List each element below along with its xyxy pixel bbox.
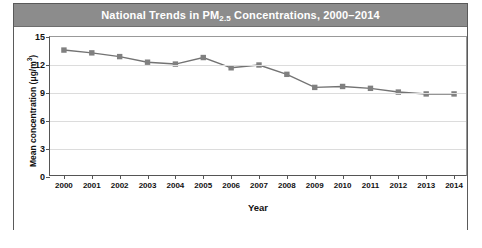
page-title: National Trends in PM2.5 Concentrations,… xyxy=(101,9,379,21)
x-axis-tick-mark xyxy=(454,175,455,179)
x-axis-tick-label: 2013 xyxy=(417,181,435,190)
data-point-marker xyxy=(340,84,345,89)
x-axis-tick-mark xyxy=(148,175,149,179)
x-axis-tick-label: 2004 xyxy=(166,181,184,190)
x-axis-tick-label: 2000 xyxy=(55,181,73,190)
x-axis-tick-mark xyxy=(259,175,260,179)
x-axis-tick-label: 2008 xyxy=(278,181,296,190)
data-point-marker xyxy=(284,72,289,77)
x-axis-tick-mark xyxy=(343,175,344,179)
x-axis-tick-mark xyxy=(287,175,288,179)
data-point-marker xyxy=(117,54,122,59)
x-axis-tick-label: 2001 xyxy=(83,181,101,190)
x-axis-tick-label: 2006 xyxy=(222,181,240,190)
data-point-marker xyxy=(61,47,66,52)
x-axis-tick-label: 2002 xyxy=(111,181,129,190)
x-axis-tick-mark xyxy=(120,175,121,179)
y-axis-tick-label: 15 xyxy=(35,32,45,42)
x-axis-tick-mark xyxy=(370,175,371,179)
x-axis-tick-mark xyxy=(315,175,316,179)
plot-area: 0369121520002001200220032004200520062007… xyxy=(49,36,467,176)
chart-title-main: National Trends in PM xyxy=(101,9,219,21)
x-axis-tick-label: 2007 xyxy=(250,181,268,190)
y-axis-tick-label: 6 xyxy=(40,116,45,126)
y-axis-tick-mark xyxy=(46,177,50,178)
x-axis-tick-mark xyxy=(64,175,65,179)
data-point-marker xyxy=(201,55,206,60)
chart-title-rest: Concentrations, 2000–2014 xyxy=(231,9,380,21)
y-gridline xyxy=(50,149,466,150)
y-axis-label-tail: ) xyxy=(28,55,38,58)
y-axis-tick-label: 0 xyxy=(40,172,45,182)
y-axis-tick-mark xyxy=(46,93,50,94)
x-axis-tick-label: 2003 xyxy=(139,181,157,190)
x-axis-tick-label: 2005 xyxy=(194,181,212,190)
data-point-marker xyxy=(312,85,317,90)
x-axis-tick-label: 2010 xyxy=(334,181,352,190)
data-point-marker xyxy=(89,50,94,55)
y-axis-label-superscript: 3 xyxy=(26,58,33,62)
y-axis-tick-mark xyxy=(46,149,50,150)
y-axis-tick-mark xyxy=(46,65,50,66)
x-axis-tick-label: 2009 xyxy=(306,181,324,190)
x-axis-tick-mark xyxy=(175,175,176,179)
data-point-marker xyxy=(368,86,373,91)
y-gridline xyxy=(50,65,466,66)
y-axis-tick-mark xyxy=(46,121,50,122)
series-line-path xyxy=(64,50,454,94)
y-axis-tick-label: 12 xyxy=(35,60,45,70)
x-axis-tick-mark xyxy=(398,175,399,179)
x-axis-tick-label: 2012 xyxy=(389,181,407,190)
x-axis-tick-mark xyxy=(426,175,427,179)
data-series-line xyxy=(50,37,468,177)
x-axis-tick-mark xyxy=(92,175,93,179)
y-gridline xyxy=(50,93,466,94)
x-axis-tick-mark xyxy=(231,175,232,179)
x-axis-tick-label: 2014 xyxy=(445,181,463,190)
x-axis-tick-mark xyxy=(203,175,204,179)
x-axis-label: Year xyxy=(49,202,467,213)
x-axis-tick-label: 2011 xyxy=(362,181,379,190)
y-axis-tick-mark xyxy=(46,37,50,38)
chart-title-bar: National Trends in PM2.5 Concentrations,… xyxy=(14,4,467,27)
y-axis-label-main: Mean concentration (μg/m xyxy=(28,61,38,167)
chart-figure: National Trends in PM2.5 Concentrations,… xyxy=(13,3,468,230)
plot-wrapper: Mean concentration (μg/m3) 0369121520002… xyxy=(14,27,467,231)
chart-title-subscript: 2.5 xyxy=(219,14,231,23)
y-axis-tick-label: 3 xyxy=(40,144,45,154)
y-axis-tick-label: 9 xyxy=(40,88,45,98)
y-gridline xyxy=(50,121,466,122)
